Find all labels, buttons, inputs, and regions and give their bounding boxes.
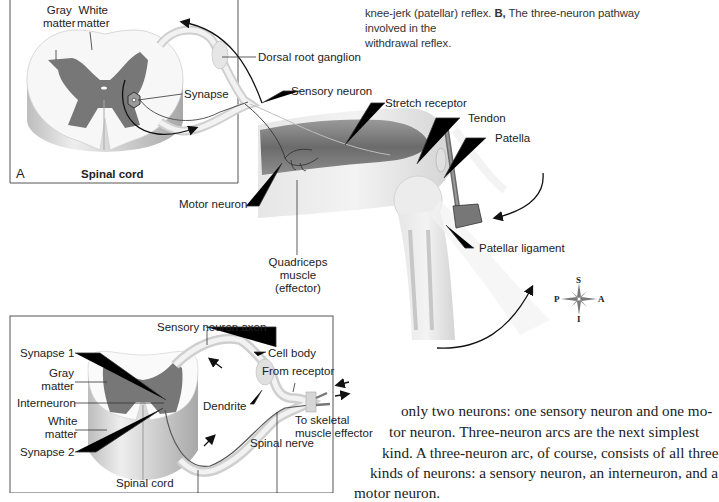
patella-shape (436, 148, 446, 172)
compass-posterior: P (554, 293, 560, 306)
label-gray-matter-a: Graymatter (43, 4, 76, 30)
label-sensory-neuron: Sensory neuron (291, 85, 372, 98)
label-dendrite: Dendrite (203, 400, 246, 413)
body-text-line-4: kinds of neurons: a sensory neuron, an i… (370, 463, 718, 482)
label-interneuron: Interneuron (17, 397, 76, 410)
compass-anterior: A (598, 293, 605, 306)
arrow-hammer-strike (495, 173, 543, 218)
label-motor-neuron: Motor neuron (179, 198, 247, 211)
arrow-from-receptor (337, 382, 349, 385)
spinal-nerve-shape (306, 392, 316, 412)
dorsal-root-ganglion-shape (212, 41, 228, 69)
label-synapse-1: Synapse 1 (20, 347, 74, 360)
arrow-to-effector (335, 394, 348, 396)
label-patellar-ligament: Patellar ligament (479, 242, 565, 255)
label-spinal-nerve: Spinal nerve (250, 437, 314, 450)
panel-a-title: Spinal cord (81, 168, 144, 181)
label-stretch-receptor: Stretch receptor (385, 97, 467, 110)
label-quadriceps: Quadriceps muscle (effector) (268, 256, 328, 295)
reflex-hammer-head (453, 204, 482, 228)
body-text-line-2: tor neuron. Three-neuron arcs are the ne… (389, 422, 699, 441)
label-dorsal-root-ganglion: Dorsal root ganglion (258, 51, 361, 64)
body-text-line-5: motor neuron. (354, 483, 440, 502)
label-synapse-a: Synapse (184, 88, 229, 101)
body-text-line-3: kind. A three-neuron arc, of course, con… (382, 443, 719, 462)
compass-rose-icon (561, 283, 597, 315)
label-synapse-2: Synapse 2 (20, 446, 74, 459)
label-white-matter-a: Whitematter (77, 4, 110, 30)
label-white-matter-b: Whitematter (42, 415, 77, 441)
panel-a-letter: A (16, 167, 25, 180)
label-cell-body: Cell body (268, 347, 316, 360)
label-sensory-neuron-axon: Sensory neuron axon (157, 321, 266, 334)
label-from-receptor: From receptor (262, 365, 334, 378)
label-spinal-cord-b: Spinal cord (116, 477, 174, 490)
label-gray-matter-b: Graymatter (39, 367, 74, 393)
compass-superior: S (576, 274, 581, 287)
label-tendon: Tendon (468, 112, 506, 125)
compass-inferior: I (577, 313, 581, 326)
label-patella: Patella (495, 132, 530, 145)
body-text-line-1: only two neurons: one sensory neuron and… (401, 401, 712, 420)
